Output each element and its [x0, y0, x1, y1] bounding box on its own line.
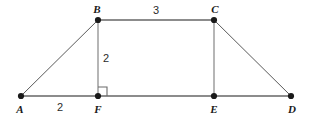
segment-ab [21, 20, 98, 96]
vertex-dot-c [211, 17, 217, 23]
vertex-dot-e [211, 93, 217, 99]
diagram-canvas [0, 0, 311, 118]
measure-label-bc: 3 [153, 5, 159, 16]
vertex-dot-d [288, 93, 294, 99]
segment-cd [214, 20, 291, 96]
geometry-diagram: A B C D E F 2 2 3 [0, 0, 311, 118]
vertex-label-a: A [16, 104, 23, 115]
vertex-label-b: B [93, 4, 100, 15]
vertex-label-f: F [94, 104, 101, 115]
vertex-label-d: D [288, 104, 296, 115]
vertex-dot-a [18, 93, 24, 99]
vertex-label-e: E [210, 104, 217, 115]
vertex-dot-b [95, 17, 101, 23]
measure-label-bf: 2 [103, 53, 109, 64]
vertex-dot-f [95, 93, 101, 99]
measure-label-af: 2 [57, 102, 63, 113]
vertex-label-c: C [211, 4, 218, 15]
